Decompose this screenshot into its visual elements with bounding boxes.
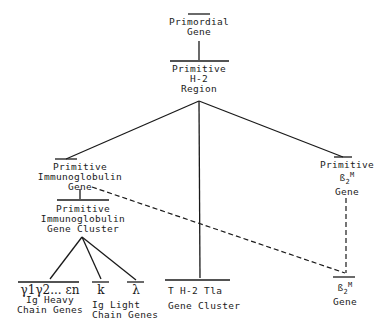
node-kappa: k — [92, 285, 110, 295]
node-label: Chain Genes — [92, 310, 162, 320]
edge-cluster-heavy — [50, 237, 82, 279]
edge-ig-b2m-dashed — [92, 187, 345, 273]
node-primordial-gene: Primordial Gene — [164, 17, 234, 37]
b2m-symbol: ß2M — [312, 170, 382, 187]
node-primitive-b2m-gene: Primitive ß2M Gene — [312, 160, 382, 197]
node-light-chain-label: Ig Light Chain Genes — [92, 300, 162, 320]
node-primitive-h2-region: Primitive H-2 Region — [164, 64, 234, 94]
node-b2m-gene: ß2M Gene — [323, 280, 367, 307]
node-label: Gene — [164, 27, 234, 37]
edge-h2-b2m-primitive — [199, 101, 343, 157]
node-label: T H-2 Tla — [168, 283, 238, 298]
node-label: Gene — [323, 297, 367, 307]
node-primitive-ig-cluster: Primitive Immunoglobulin Gene Cluster — [38, 204, 128, 234]
edge-cluster-kappa — [82, 237, 101, 279]
node-lambda: λ — [127, 285, 145, 295]
edge-cluster-lambda — [82, 237, 136, 280]
node-heavy-chain-genes: γ1γ2... εn Ig Heavy Chain Genes — [10, 285, 90, 315]
node-label: Gene — [312, 187, 382, 197]
node-th2-tla-cluster: T H-2 Tla Gene Cluster — [168, 283, 238, 313]
node-label: Primitive — [312, 160, 382, 170]
kappa-symbol: k — [92, 285, 110, 295]
node-label: Gene Cluster — [168, 298, 238, 313]
node-primitive-ig-gene: Primitive Immunoglobulin Gene — [35, 162, 125, 192]
b2m-symbol: ß2M — [323, 280, 367, 297]
node-label: Chain Genes — [10, 305, 90, 315]
edge-h2-th2 — [199, 101, 200, 278]
node-label: Gene — [35, 182, 125, 192]
lambda-symbol: λ — [127, 285, 145, 295]
node-label: Gene Cluster — [38, 224, 128, 234]
edge-h2-ig — [66, 101, 199, 159]
node-label: Region — [164, 84, 234, 94]
